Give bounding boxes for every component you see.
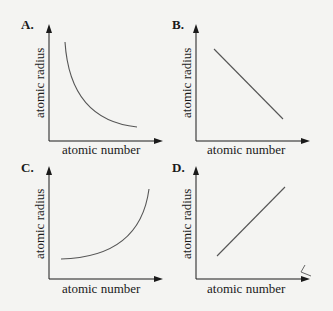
graph-panel-c: C. atomic radius atomic number xyxy=(0,155,166,310)
y-axis-arrow-icon xyxy=(193,166,199,175)
pen-mark-icon xyxy=(301,265,311,276)
y-axis-arrow-icon xyxy=(193,24,199,33)
x-axis-arrow-icon xyxy=(154,138,163,144)
x-axis-label-c: atomic number xyxy=(62,281,140,297)
graph-panel-a: A. atomic radius atomic number xyxy=(0,0,166,155)
y-axis-label-c: atomic radius xyxy=(32,189,48,259)
graph-panel-d: D. atomic radius atomic number xyxy=(165,155,331,310)
panel-label-c: C. xyxy=(21,160,34,176)
y-axis-arrow-icon xyxy=(46,166,52,175)
curve-a xyxy=(65,42,137,127)
panel-label-b: B. xyxy=(172,17,184,33)
y-axis-arrow-icon xyxy=(46,24,52,33)
graph-panel-b: B. atomic radius atomic number xyxy=(165,0,331,155)
x-axis-label-d: atomic number xyxy=(207,281,285,297)
curve-b xyxy=(214,49,283,119)
curve-c xyxy=(61,189,149,259)
y-axis-label-d: atomic radius xyxy=(179,189,195,259)
panel-label-d: D. xyxy=(172,160,185,176)
x-axis-arrow-icon xyxy=(301,276,310,282)
y-axis-label-b: atomic radius xyxy=(179,48,195,118)
y-axis-label-a: atomic radius xyxy=(32,48,48,118)
x-axis-arrow-icon xyxy=(154,276,163,282)
curve-d xyxy=(217,187,285,256)
x-axis-arrow-icon xyxy=(301,138,310,144)
panel-label-a: A. xyxy=(21,17,34,33)
